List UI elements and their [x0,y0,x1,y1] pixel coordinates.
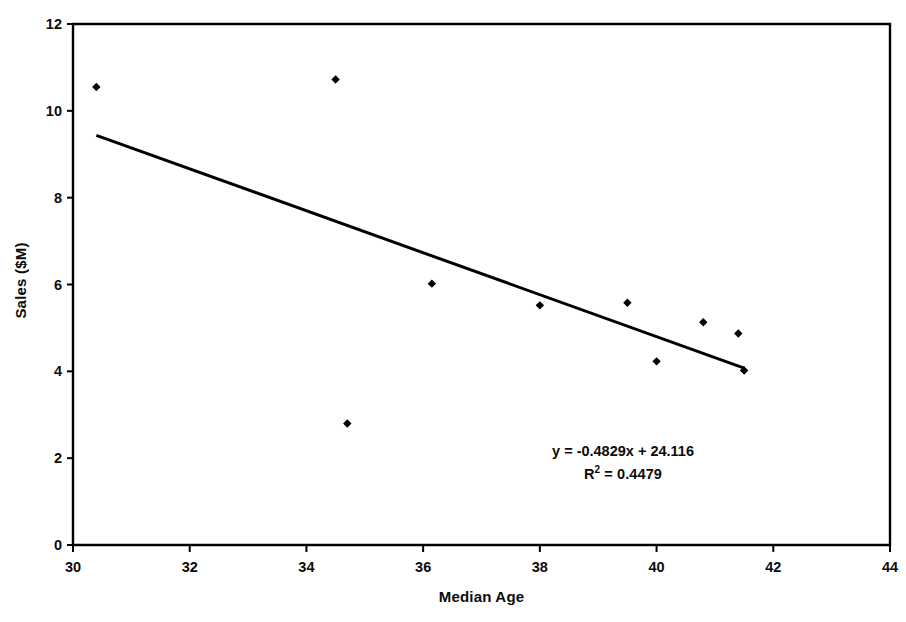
y-axis-tick-label: 4 [28,363,62,379]
x-axis-tick-label: 38 [532,559,548,575]
regression-annotation: y = -0.4829x + 24.116 R2 = 0.4479 [508,440,738,486]
plot-area [0,0,906,622]
y-axis-tick-label: 8 [28,190,62,206]
y-axis-tick-label: 0 [28,537,62,553]
x-axis-tick-label: 44 [882,559,898,575]
r-squared-prefix: R [584,466,595,482]
data-point-marker [428,279,436,287]
trendline [96,135,744,368]
regression-equation: y = -0.4829x + 24.116 [508,440,738,462]
y-axis-tick-label: 10 [28,103,62,119]
data-point-marker [536,301,544,309]
y-axis-tick-label: 12 [28,16,62,32]
data-point-marker [652,357,660,365]
x-axis-tick-label: 42 [765,559,781,575]
x-axis-label-container: Median Age [73,588,890,606]
x-axis-tick-label: 32 [182,559,198,575]
y-axis-tick-label: 6 [28,277,62,293]
data-point-marker [343,419,351,427]
data-point-marker [734,329,742,337]
x-axis-tick-label: 30 [65,559,81,575]
data-point-marker [92,83,100,91]
scatter-chart: Sales ($M) Median Age 024681012303234363… [0,0,906,622]
data-point-marker [699,318,707,326]
y-axis-tick-label: 2 [28,450,62,466]
x-axis-tick-label: 36 [415,559,431,575]
r-squared-value: R2 = 0.4479 [508,462,738,485]
plot-frame [73,24,890,545]
data-point-marker [331,75,339,83]
x-axis-tick-label: 40 [648,559,664,575]
x-axis-label: Median Age [439,588,525,605]
data-point-marker [623,299,631,307]
r-squared-number: = 0.4479 [600,466,662,482]
x-axis-tick-label: 34 [298,559,314,575]
